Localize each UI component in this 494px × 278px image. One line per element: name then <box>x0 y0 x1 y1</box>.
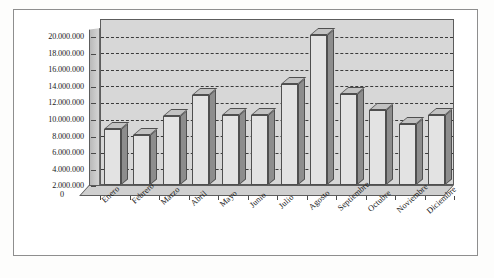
y-tick-label-zero: 0 <box>60 190 64 199</box>
bar-front-face <box>310 35 327 185</box>
y-tick-mark <box>91 70 96 71</box>
y-tick-mark <box>91 54 96 55</box>
bar-side-face <box>150 129 157 185</box>
bar-noviembre[interactable] <box>399 124 416 185</box>
x-axis: EneroFebreroMarzoAbrilMayoJunioJulioAgos… <box>74 198 474 254</box>
y-tick-mark <box>91 103 96 104</box>
bar-front-face <box>163 116 180 185</box>
y-tick-label: 10.000.000 <box>20 116 84 124</box>
bar-front-face <box>369 110 386 185</box>
bar-side-face <box>239 109 246 185</box>
y-tick-mark <box>91 170 96 171</box>
y-tick-mark <box>91 137 96 138</box>
bar-octubre[interactable] <box>369 110 386 185</box>
y-tick-label: 14.000.000 <box>20 83 84 91</box>
bar-side-face <box>327 29 334 185</box>
bar-chart: 2.000.0004.000.0006.000.0008.000.00010.0… <box>14 10 479 257</box>
y-tick-mark <box>91 37 96 38</box>
y-axis: 2.000.0004.000.0006.000.0008.000.00010.0… <box>20 28 84 194</box>
bar-front-face <box>281 84 298 185</box>
bar-junio[interactable] <box>251 115 268 185</box>
bar-front-face <box>222 115 239 185</box>
bar-front-face <box>192 95 209 185</box>
bar-agosto[interactable] <box>310 35 327 185</box>
bar-front-face <box>340 94 357 185</box>
bars-container <box>100 19 454 196</box>
bar-side-face <box>121 124 128 185</box>
y-tick-label: 8.000.000 <box>20 133 84 141</box>
y-tick-label: 2.000.000 <box>20 182 84 190</box>
y-tick-label: 16.000.000 <box>20 66 84 74</box>
bar-side-face <box>386 104 393 185</box>
bar-side-face <box>209 89 216 185</box>
bar-febrero[interactable] <box>133 135 150 185</box>
bar-marzo[interactable] <box>163 116 180 185</box>
bar-septiembre[interactable] <box>340 94 357 185</box>
bar-abril[interactable] <box>192 95 209 185</box>
bar-diciembre[interactable] <box>428 115 445 185</box>
bar-enero[interactable] <box>104 129 121 185</box>
bar-side-face <box>357 88 364 185</box>
bar-mayo[interactable] <box>222 115 239 185</box>
y-tick-label: 12.000.000 <box>20 99 84 107</box>
bar-side-face <box>298 78 305 185</box>
bar-side-face <box>445 109 452 185</box>
y-tick-label: 6.000.000 <box>20 149 84 157</box>
y-tick-mark <box>91 153 96 154</box>
bar-front-face <box>428 115 445 185</box>
y-tick-mark <box>91 120 96 121</box>
scanned-page: 2.000.0004.000.0006.000.0008.000.00010.0… <box>0 0 494 278</box>
bar-julio[interactable] <box>281 84 298 185</box>
bar-side-face <box>416 119 423 185</box>
bar-front-face <box>399 124 416 185</box>
y-tick-label: 18.000.000 <box>20 50 84 58</box>
bar-side-face <box>268 109 275 185</box>
y-tick-mark <box>91 186 96 187</box>
bar-front-face <box>104 129 121 185</box>
bar-front-face <box>251 115 268 185</box>
y-tick-label: 20.000.000 <box>20 33 84 41</box>
chart-frame: 2.000.0004.000.0006.000.0008.000.00010.0… <box>13 9 478 256</box>
bar-side-face <box>180 110 187 185</box>
y-tick-label: 4.000.000 <box>20 166 84 174</box>
y-tick-mark <box>91 87 96 88</box>
bar-front-face <box>133 135 150 185</box>
